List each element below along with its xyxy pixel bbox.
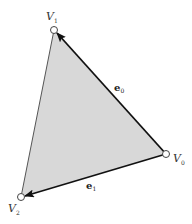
- vertex-v0-label: V0: [173, 152, 185, 166]
- vertex-v2-label: V2: [8, 202, 20, 216]
- edge-e1-label: e1: [86, 180, 96, 192]
- edge-e0-label: e0: [114, 82, 124, 94]
- vertex-v1-marker: [51, 27, 58, 34]
- triangle-face: [21, 30, 166, 197]
- vertex-v2-marker: [18, 194, 25, 201]
- vertex-v0-marker: [163, 151, 170, 158]
- triangle-diagram: V1 V0 V2 e0 e1: [0, 0, 192, 224]
- vertex-v1-label: V1: [46, 10, 58, 24]
